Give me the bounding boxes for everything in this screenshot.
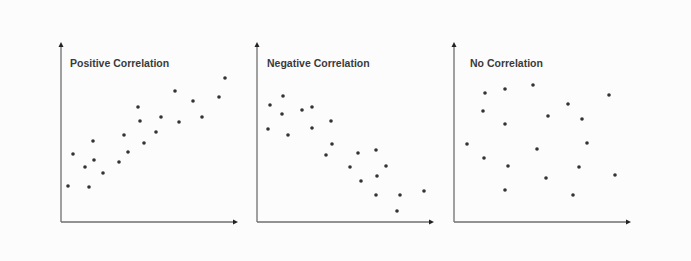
data-point <box>483 91 487 95</box>
data-point <box>266 127 270 131</box>
no-correlation-panel: No Correlation <box>452 42 632 225</box>
data-point <box>300 108 304 112</box>
data-point <box>585 141 589 145</box>
data-point <box>286 133 290 137</box>
data-point <box>580 117 584 121</box>
data-point <box>142 141 146 145</box>
data-point <box>92 158 96 162</box>
data-point <box>577 165 581 169</box>
scatter-plots-canvas: Positive Correlation Negative Correlatio… <box>0 0 691 261</box>
data-point <box>330 142 334 146</box>
data-point <box>268 103 272 107</box>
data-point <box>422 189 426 193</box>
arrow-right-icon <box>626 220 631 225</box>
data-point <box>191 99 195 103</box>
data-point <box>374 148 378 152</box>
data-point <box>613 173 617 177</box>
data-point <box>506 164 510 168</box>
arrow-up-icon <box>452 42 457 47</box>
data-point <box>356 151 360 155</box>
data-point <box>544 176 548 180</box>
data-point <box>375 174 379 178</box>
data-point <box>177 120 181 124</box>
arrow-up-icon <box>255 42 260 47</box>
data-point <box>398 193 402 197</box>
data-point <box>546 114 550 118</box>
data-point <box>173 89 177 93</box>
data-point <box>465 142 469 146</box>
data-point <box>503 188 507 192</box>
panel-title: No Correlation <box>470 57 543 69</box>
data-point <box>503 87 507 91</box>
data-point <box>607 93 611 97</box>
data-point <box>117 160 121 164</box>
positive-correlation-panel: Positive Correlation <box>59 42 239 225</box>
data-point <box>71 152 75 156</box>
negative-correlation-panel: Negative Correlation <box>255 42 435 225</box>
data-point <box>324 153 328 157</box>
data-point <box>384 164 388 168</box>
data-point <box>310 126 314 130</box>
data-point <box>566 102 570 106</box>
data-point <box>503 122 507 126</box>
panel-title: Positive Correlation <box>70 57 169 69</box>
data-point <box>374 193 378 197</box>
data-point <box>329 119 333 123</box>
panel-title: Negative Correlation <box>267 57 370 69</box>
data-point <box>122 133 126 137</box>
data-point <box>395 209 399 213</box>
data-point <box>481 109 485 113</box>
data-point <box>535 147 539 151</box>
data-point <box>348 165 352 169</box>
data-point <box>217 95 221 99</box>
data-point <box>138 119 142 123</box>
data-point <box>310 105 314 109</box>
data-point <box>200 115 204 119</box>
data-point <box>87 185 91 189</box>
arrow-right-icon <box>233 220 238 225</box>
data-point <box>280 112 284 116</box>
data-point <box>482 156 486 160</box>
data-point <box>136 105 140 109</box>
data-point <box>101 171 105 175</box>
data-point <box>571 193 575 197</box>
data-point <box>281 94 285 98</box>
data-point <box>531 83 535 87</box>
data-point <box>154 130 158 134</box>
correlation-figure: Positive Correlation Negative Correlatio… <box>0 0 691 261</box>
data-point <box>91 139 95 143</box>
data-point <box>223 76 227 80</box>
data-point <box>66 184 70 188</box>
data-point <box>159 115 163 119</box>
data-point <box>359 179 363 183</box>
data-point <box>83 165 87 169</box>
arrow-right-icon <box>429 220 434 225</box>
arrow-up-icon <box>59 42 64 47</box>
data-point <box>126 150 130 154</box>
